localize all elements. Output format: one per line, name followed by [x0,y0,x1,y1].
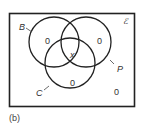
leader-b [26,28,32,32]
set-label-p: P [117,65,123,74]
region-b-only: 0 [45,37,50,46]
universal-label: ℰ [123,18,128,26]
region-c-only: 0 [70,79,75,88]
figure-caption: (b) [9,114,20,123]
region-p-only: 0 [97,37,102,46]
leader-c [44,86,49,90]
circle-p [61,17,111,67]
region-all-three: x [70,51,75,60]
set-label-c: C [36,89,43,98]
region-outside: 0 [114,88,119,97]
leader-p [110,60,114,64]
set-label-b: B [19,23,25,32]
